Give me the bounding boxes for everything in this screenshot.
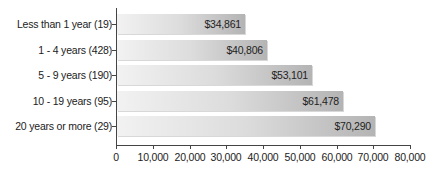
x-axis-tick <box>263 145 264 149</box>
bar: $70,290 <box>117 116 375 136</box>
x-axis-tick <box>116 145 117 149</box>
bar-value-label: $40,806 <box>226 44 263 56</box>
bar-value-label: $61,478 <box>302 95 339 107</box>
x-axis-tick <box>337 145 338 149</box>
x-axis-tick-label: 70,000 <box>358 151 389 163</box>
y-axis-tick <box>112 24 116 25</box>
bar-value-label: $70,290 <box>334 120 371 132</box>
bar: $34,861 <box>117 14 245 34</box>
y-axis-tick <box>112 75 116 76</box>
x-axis-tick <box>410 145 411 149</box>
category-label: 1 - 4 years (428) <box>38 44 112 56</box>
y-axis-tick <box>112 101 116 102</box>
bar: $40,806 <box>117 40 267 60</box>
y-axis-tick <box>112 50 116 51</box>
x-axis-tick <box>373 145 374 149</box>
category-label: Less than 1 year (19) <box>17 18 112 30</box>
x-axis-tick-label: 60,000 <box>322 151 353 163</box>
x-axis-tick-label: 0 <box>113 151 119 163</box>
x-axis-tick-label: 10,000 <box>138 151 169 163</box>
salary-by-experience-chart: Less than 1 year (19)$34,8611 - 4 years … <box>0 0 447 171</box>
bar: $61,478 <box>117 91 343 111</box>
x-axis-tick-label: 20,000 <box>175 151 206 163</box>
x-axis-tick-label: 40,000 <box>248 151 279 163</box>
bar-value-label: $34,861 <box>204 18 241 30</box>
bar-value-label: $53,101 <box>271 69 308 81</box>
x-axis-tick <box>190 145 191 149</box>
category-label: 20 years or more (29) <box>15 120 112 132</box>
x-axis-tick <box>300 145 301 149</box>
x-axis-tick <box>226 145 227 149</box>
y-axis-tick <box>112 126 116 127</box>
x-axis-tick-label: 50,000 <box>285 151 316 163</box>
x-axis-tick <box>153 145 154 149</box>
x-axis-tick-label: 30,000 <box>211 151 242 163</box>
category-label: 10 - 19 years (95) <box>33 95 112 107</box>
x-axis-tick-label: 80,000 <box>395 151 426 163</box>
bar: $53,101 <box>117 65 312 85</box>
category-label: 5 - 9 years (190) <box>38 69 112 81</box>
